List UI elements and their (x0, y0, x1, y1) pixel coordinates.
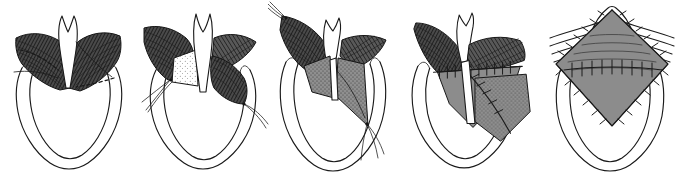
panel-3-drawing (268, 0, 404, 177)
panel-step-1 (0, 0, 136, 177)
transposed-right-lower-limb (336, 58, 368, 126)
panel-4-drawing (404, 0, 540, 177)
suture-knot (169, 78, 172, 81)
panel-2-drawing (134, 0, 270, 177)
midline-white-cleft (330, 58, 338, 100)
panel-step-2 (134, 0, 270, 177)
suture-knot (285, 17, 288, 20)
surgical-technique-figure (0, 0, 682, 177)
suture-knot (365, 122, 368, 125)
panel-step-4 (404, 0, 540, 177)
panel-1-drawing (0, 0, 136, 177)
panel-step-5 (542, 0, 682, 177)
transposed-flap (438, 66, 531, 141)
stay-suture-superior (268, 2, 288, 20)
panel-step-3 (268, 0, 404, 177)
retraction-suture (142, 78, 173, 112)
panel-5-drawing (542, 0, 682, 177)
suture-knot (242, 102, 245, 105)
